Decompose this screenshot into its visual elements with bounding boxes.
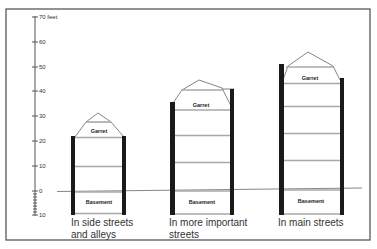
right-wall (230, 89, 234, 215)
tick-label-20: 20 (39, 138, 46, 144)
tick-label-70: 70 feet (39, 14, 58, 20)
right-wall (340, 78, 344, 215)
tick-label-10: 10 (39, 163, 46, 169)
basement-label: Basement (86, 199, 112, 205)
caption-line1: In main streets (278, 217, 344, 228)
tick-label-50: 50 (39, 64, 46, 70)
caption-line2: and alleys (71, 229, 116, 240)
tick-label-40: 40 (39, 88, 46, 94)
garret-label: Garret (302, 75, 319, 81)
caption-line1: In side streets (71, 217, 133, 228)
building-side-streets: Garret Basement In side streets and alle… (71, 113, 133, 240)
right-wall (122, 136, 126, 215)
height-scale-axis: 70 feet 60 50 40 30 20 10 0 10 (32, 14, 58, 218)
tick-label-0: 0 (39, 188, 43, 194)
left-wall (71, 136, 75, 215)
caption-line1: In more important (169, 217, 248, 228)
building-main-streets: Garret Basement In main streets (278, 52, 344, 228)
left-wall (170, 102, 175, 215)
tick-label-minus-10: 10 (39, 212, 46, 218)
basement-label: Basement (298, 198, 324, 204)
basement-label: Basement (189, 199, 215, 205)
garret-label: Garret (193, 102, 210, 108)
tick-label-30: 30 (39, 113, 46, 119)
building-height-diagram: 70 feet 60 50 40 30 20 10 0 10 Garret Ba… (0, 0, 377, 249)
building-more-important-streets: Garret Basement In more important street… (169, 80, 248, 240)
caption-line2: streets (169, 229, 199, 240)
diagram-frame (6, 9, 370, 240)
garret-label: Garret (91, 128, 108, 134)
left-wall (279, 64, 284, 215)
tick-label-60: 60 (39, 39, 46, 45)
